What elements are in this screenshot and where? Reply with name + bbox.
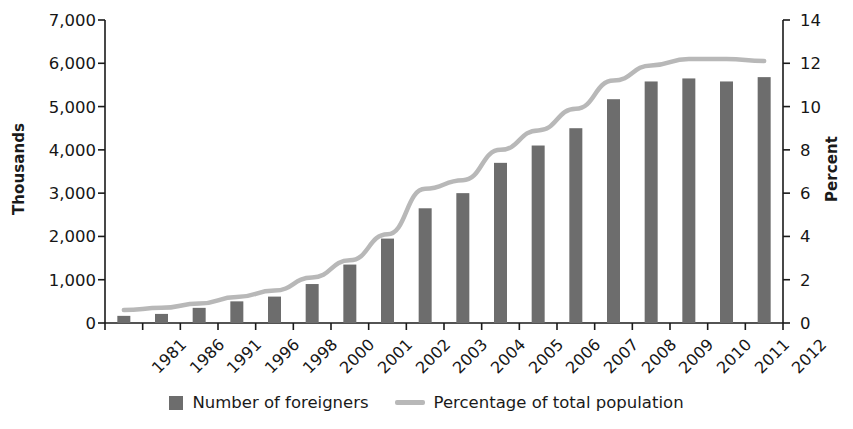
- bar: [569, 128, 582, 323]
- bar: [720, 81, 733, 323]
- bar: [193, 308, 206, 323]
- line-swatch-icon: [395, 400, 425, 405]
- bar: [306, 284, 319, 323]
- legend-label: Percentage of total population: [434, 393, 684, 412]
- bar: [343, 265, 356, 323]
- bar: [607, 99, 620, 323]
- chart-container: Thousands Percent 01,0002,0003,0004,0005…: [0, 0, 853, 429]
- bar: [645, 81, 658, 323]
- bar: [155, 314, 168, 323]
- bar: [419, 208, 432, 323]
- bar: [381, 239, 394, 323]
- line-path: [124, 59, 764, 310]
- line-series: [124, 59, 764, 310]
- bar: [758, 77, 771, 323]
- bar: [682, 78, 695, 323]
- bar: [268, 297, 281, 323]
- bar-series: [117, 77, 770, 323]
- bar: [494, 163, 507, 323]
- legend-label: Number of foreigners: [192, 393, 368, 412]
- bar: [456, 193, 469, 323]
- bar: [230, 301, 243, 323]
- plot-area: [0, 0, 853, 429]
- bar-swatch-icon: [169, 396, 183, 410]
- chart-legend: Number of foreignersPercentage of total …: [0, 393, 853, 412]
- legend-item[interactable]: Percentage of total population: [395, 393, 684, 412]
- legend-item[interactable]: Number of foreigners: [169, 393, 368, 412]
- bar: [532, 146, 545, 323]
- bar: [117, 316, 130, 323]
